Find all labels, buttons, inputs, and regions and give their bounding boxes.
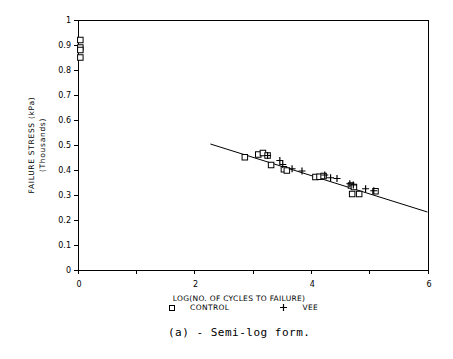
x-tick-label: 2 — [193, 280, 198, 289]
legend-label-vee: VEE — [302, 303, 318, 312]
chart-plot-area: 10.90.80.70.60.50.40.30.20.100246 — [0, 0, 453, 292]
y-axis-title-line2: (Thousands) — [37, 70, 48, 220]
x-tick-label: 0 — [76, 280, 81, 289]
control-point-square — [349, 191, 355, 197]
vee-point-plus — [334, 175, 341, 182]
x-tick-label: 6 — [426, 280, 431, 289]
control-point-square — [321, 173, 327, 179]
legend-label-control: CONTROL — [190, 303, 229, 312]
control-point-square — [242, 155, 248, 161]
plot-frame — [78, 20, 428, 270]
y-tick-label: 0.2 — [58, 216, 71, 225]
y-tick-label: 0.6 — [58, 116, 71, 125]
control-point-square — [78, 47, 84, 53]
y-tick-label: 0 — [66, 266, 71, 275]
chart-legend: CONTROL VEE — [168, 303, 318, 312]
control-point-square — [78, 37, 84, 43]
y-axis-title-line1: FAILURE STRESS (kPa) — [26, 70, 37, 220]
vee-plus-icon — [279, 303, 288, 312]
control-square-icon — [168, 304, 176, 312]
y-tick-label: 0.7 — [58, 91, 71, 100]
vee-point-plus — [362, 185, 369, 192]
x-tick-label: 4 — [310, 280, 315, 289]
y-tick-label: 0.4 — [58, 166, 71, 175]
figure-caption: (a) - Semi-log form. — [168, 326, 310, 339]
y-tick-label: 0.8 — [58, 66, 71, 75]
y-tick-label: 0.5 — [58, 141, 71, 150]
figure: 10.90.80.70.60.50.40.30.20.100246 FAILUR… — [0, 0, 453, 359]
control-point-square — [268, 162, 274, 168]
control-point-square — [78, 55, 84, 61]
y-tick-label: 0.9 — [58, 41, 71, 50]
y-tick-label: 1 — [66, 16, 71, 25]
y-tick-label: 0.3 — [58, 191, 71, 200]
y-axis-title: FAILURE STRESS (kPa) (Thousands) — [26, 70, 48, 220]
y-tick-label: 0.1 — [58, 241, 71, 250]
x-axis-title: LOG(NO. OF CYCLES TO FAILURE) — [64, 294, 414, 303]
control-point-square — [356, 191, 362, 197]
